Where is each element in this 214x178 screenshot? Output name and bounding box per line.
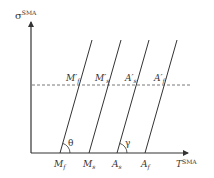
- label-as-prime: A′s: [124, 73, 137, 84]
- label-ms-prime: M′s: [94, 73, 109, 84]
- label-ms: Ms: [82, 159, 95, 170]
- theta-label: θ: [68, 138, 73, 148]
- line-af: [145, 40, 177, 153]
- label-af-prime: A′f: [153, 73, 167, 85]
- label-af: Af: [140, 159, 152, 171]
- line-ms: [89, 40, 121, 153]
- line-as: [117, 40, 149, 153]
- sma-phase-diagram: θ γ σSMA TSMA Mf Ms As Af M′f M′s A′s A′…: [0, 0, 214, 178]
- label-mf: Mf: [53, 159, 67, 171]
- label-mf-prime: M′f: [65, 73, 81, 85]
- y-axis-label: σSMA: [15, 9, 37, 21]
- label-as: As: [111, 159, 122, 170]
- line-mf: [60, 40, 92, 153]
- gamma-label: γ: [125, 138, 130, 148]
- x-axis-label: TSMA: [176, 158, 197, 169]
